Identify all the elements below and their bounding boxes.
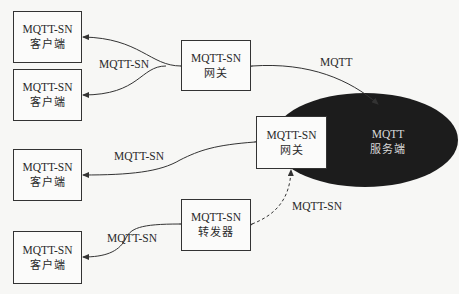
label-client4-forwarder: MQTT-SN (107, 232, 157, 244)
client-4-title: MQTT-SN (22, 243, 72, 258)
forwarder-title: MQTT-SN (191, 210, 241, 225)
link-client2-gateway (83, 66, 166, 95)
client-2-title: MQTT-SN (22, 80, 72, 95)
gateway-top-subtitle: 网关 (204, 66, 228, 81)
client-3-subtitle: 客户端 (30, 175, 66, 190)
mqtt-sn-client-1: MQTT-SN 客户端 (13, 11, 82, 63)
server-subtitle: 服务端 (370, 142, 406, 157)
label-gateway-server: MQTT (320, 56, 353, 68)
gateway-mid-subtitle: 网关 (280, 143, 304, 158)
mqtt-sn-forwarder: MQTT-SN 转发器 (181, 199, 251, 251)
gateway-mid-title: MQTT-SN (266, 128, 316, 143)
mqtt-sn-gateway-mid: MQTT-SN 网关 (256, 116, 327, 169)
server-title: MQTT (372, 127, 405, 142)
mqtt-server: MQTT 服务端 (318, 112, 458, 172)
forwarder-subtitle: 转发器 (198, 225, 234, 240)
client-4-subtitle: 客户端 (30, 258, 66, 273)
client-1-subtitle: 客户端 (30, 37, 66, 52)
client-1-title: MQTT-SN (22, 22, 72, 37)
label-forwarder-gateway-mid: MQTT-SN (292, 200, 342, 212)
mqtt-sn-gateway-top: MQTT-SN 网关 (181, 40, 251, 91)
label-client3-gateway-mid: MQTT-SN (114, 150, 164, 162)
link-forwarder-gateway-mid (252, 170, 291, 224)
gateway-top-title: MQTT-SN (191, 51, 241, 66)
mqtt-sn-client-3: MQTT-SN 客户端 (13, 149, 82, 201)
mqtt-sn-client-4: MQTT-SN 客户端 (13, 231, 82, 284)
link-client3-gateway-mid (83, 142, 255, 175)
label-clients-gateway-top: MQTT-SN (99, 58, 149, 70)
client-2-subtitle: 客户端 (30, 95, 66, 110)
client-3-title: MQTT-SN (22, 160, 72, 175)
mqtt-sn-client-2: MQTT-SN 客户端 (13, 69, 82, 121)
